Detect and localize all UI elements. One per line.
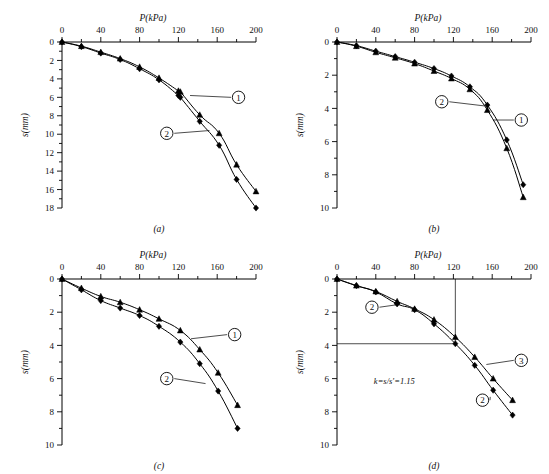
- data-point-marker: [137, 307, 143, 313]
- y-tick-label: 4: [50, 341, 55, 351]
- y-tick-label: 4: [325, 341, 330, 351]
- chart-panel-d: 04080120160200P(kPa)0246810s(mm)232k=s/s…: [275, 237, 549, 474]
- x-tick-label: 200: [249, 25, 263, 35]
- callout-number: 1: [236, 93, 241, 103]
- y-tick-label: 10: [320, 203, 330, 213]
- data-point-marker: [156, 77, 161, 83]
- data-point-marker: [137, 312, 142, 318]
- k-ratio-note: k=s/s'=1.15: [374, 376, 415, 386]
- x-axis-title: P(kPa): [414, 250, 442, 261]
- panel-caption-c: (c): [154, 461, 165, 472]
- x-tick-label: 200: [524, 262, 538, 272]
- chart-panel-b: 04080120160200P(kPa)0246810s(mm)12(b): [275, 0, 549, 237]
- x-tick-label: 40: [96, 262, 106, 272]
- x-axis-title: P(kPa): [139, 250, 167, 261]
- callout-label-②: 2: [436, 96, 485, 108]
- y-tick-label: 0: [325, 274, 330, 284]
- callout-label-②: 2: [161, 372, 206, 384]
- data-point-marker: [234, 162, 240, 168]
- x-tick-label: 0: [60, 262, 65, 272]
- data-point-marker: [137, 66, 142, 72]
- series-2-panel-b: [334, 39, 526, 188]
- data-point-marker: [521, 182, 526, 188]
- y-axis-a: 024681012141618s(mm): [20, 37, 62, 213]
- data-point-marker: [504, 137, 509, 143]
- callout-label-②: 2: [161, 127, 210, 139]
- y-tick-label: 4: [325, 104, 330, 114]
- panel-caption-a: (a): [153, 224, 164, 235]
- chart-svg-d: 04080120160200P(kPa)0246810s(mm)232k=s/s…: [275, 237, 549, 474]
- y-tick-label: 2: [50, 56, 55, 66]
- series-2-panel-a: [59, 39, 258, 211]
- callout-label-①: 1: [493, 114, 527, 126]
- y-tick-label: 10: [320, 440, 330, 450]
- y-tick-label: 10: [45, 440, 55, 450]
- data-point-marker: [156, 323, 161, 329]
- y-tick-label: 18: [45, 203, 55, 213]
- y-tick-label: 16: [45, 185, 55, 195]
- data-point-marker: [177, 327, 183, 333]
- x-tick-label: 80: [135, 262, 145, 272]
- y-tick-label: 0: [50, 37, 55, 47]
- x-axis-b: 04080120160200P(kPa): [335, 13, 539, 42]
- chart-svg-c: 04080120160200P(kPa)0246810s(mm)12(c): [0, 237, 274, 474]
- y-axis-title: s(mm): [295, 113, 306, 137]
- callout-label-①: 1: [191, 328, 241, 340]
- callout-label-②: 2: [476, 394, 490, 406]
- callout-number: 2: [480, 395, 485, 405]
- callout-number: 2: [165, 129, 170, 139]
- data-point-marker: [449, 73, 454, 79]
- y-axis-b: 0246810s(mm): [295, 37, 337, 213]
- x-tick-label: 80: [135, 25, 145, 35]
- y-tick-label: 6: [325, 374, 330, 384]
- x-tick-label: 0: [335, 25, 340, 35]
- data-point-marker: [156, 316, 162, 322]
- x-axis-c: 04080120160200P(kPa): [60, 250, 264, 279]
- y-tick-label: 14: [45, 166, 55, 176]
- y-axis-c: 0246810s(mm): [20, 274, 62, 450]
- callout-label-③: 3: [486, 354, 527, 366]
- x-tick-label: 80: [410, 25, 420, 35]
- series-1-panel-c: [59, 276, 240, 408]
- chart-svg-a: 04080120160200P(kPa)024681012141618s(mm)…: [0, 0, 274, 237]
- x-axis-a: 04080120160200P(kPa): [60, 13, 264, 42]
- callout-label-①: 1: [190, 91, 245, 103]
- panel-caption-d: (d): [428, 461, 439, 472]
- y-tick-label: 2: [325, 307, 330, 317]
- y-tick-label: 6: [325, 137, 330, 147]
- data-point-marker: [235, 402, 241, 408]
- x-tick-label: 120: [447, 25, 461, 35]
- callout-number: 2: [165, 374, 170, 384]
- series-1-panel-a: [59, 39, 259, 194]
- y-axis-title: s(mm): [20, 113, 31, 137]
- data-point-marker: [520, 194, 526, 200]
- chart-panel-c: 04080120160200P(kPa)0246810s(mm)12(c): [0, 237, 274, 474]
- data-point-marker: [118, 56, 123, 62]
- x-tick-label: 200: [249, 262, 263, 272]
- series-1-panel-b: [334, 39, 526, 200]
- y-tick-label: 0: [325, 37, 330, 47]
- x-tick-label: 40: [371, 262, 381, 272]
- x-tick-label: 40: [96, 25, 106, 35]
- x-tick-label: 200: [524, 25, 538, 35]
- chart-svg-b: 04080120160200P(kPa)0246810s(mm)12(b): [275, 0, 549, 237]
- callout-number: 1: [519, 115, 524, 125]
- panel-caption-b: (b): [428, 224, 439, 235]
- figure-container: 04080120160200P(kPa)024681012141618s(mm)…: [0, 0, 549, 474]
- x-axis-d: 04080120160200P(kPa): [335, 250, 539, 279]
- y-axis-title: s(mm): [295, 350, 306, 374]
- y-axis-d: 0246810s(mm): [295, 274, 337, 450]
- x-tick-label: 120: [172, 25, 186, 35]
- y-tick-label: 6: [50, 374, 55, 384]
- x-tick-label: 160: [485, 262, 499, 272]
- y-tick-label: 6: [50, 93, 55, 103]
- callout-label-②: 2: [366, 301, 397, 313]
- x-tick-label: 0: [335, 262, 340, 272]
- chart-panel-a: 04080120160200P(kPa)024681012141618s(mm)…: [0, 0, 274, 237]
- y-tick-label: 8: [325, 170, 330, 180]
- series-2-panel-c: [59, 276, 240, 432]
- callout-number: 3: [519, 356, 524, 366]
- callout-number: 1: [232, 330, 237, 340]
- x-tick-label: 160: [485, 25, 499, 35]
- data-point-marker: [98, 50, 103, 56]
